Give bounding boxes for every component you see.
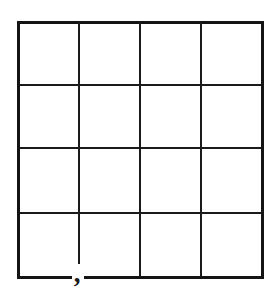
grid-cell-r1c3[interactable] [140, 22, 201, 85]
grid-cell-r1c4[interactable] [201, 22, 262, 85]
grid-cell-r4c4[interactable] [201, 213, 262, 277]
grid-cell-r1c2[interactable] [79, 22, 140, 85]
grid-cell-r2c1[interactable] [18, 85, 79, 148]
grid-cell-r3c2[interactable] [79, 148, 140, 213]
grid-cell-r3c3[interactable] [140, 148, 201, 213]
grid-cell-r1c1[interactable] [18, 22, 79, 85]
grid-cell-r2c2[interactable] [79, 85, 140, 148]
grid-drawing [0, 0, 274, 298]
comma-mark: , [68, 258, 86, 288]
grid-cell-r4c2[interactable] [79, 213, 140, 277]
grid-cell-r2c3[interactable] [140, 85, 201, 148]
grid-cell-r3c4[interactable] [201, 148, 262, 213]
grid-cells [18, 22, 262, 277]
grid-cell-r4c3[interactable] [140, 213, 201, 277]
grid-figure: , [0, 0, 274, 298]
grid-cell-r2c4[interactable] [201, 85, 262, 148]
grid-cell-r3c1[interactable] [18, 148, 79, 213]
